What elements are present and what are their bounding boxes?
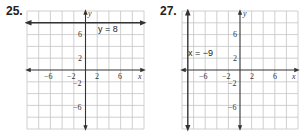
tick-y-2: 2 — [78, 54, 82, 63]
tick-x-2: 2 — [95, 72, 99, 81]
graph-27: y x x = −9 6 2 −2 −6 −6 −2 2 6 — [152, 0, 307, 138]
tick-x-m6: −6 — [44, 72, 53, 81]
tick-y-6: 6 — [233, 30, 237, 39]
graph-25: y x y = 8 6 2 −2 −6 −6 −2 2 6 — [0, 0, 155, 138]
x-axis-label: x — [291, 72, 296, 81]
y-axis-label: y — [87, 9, 92, 18]
tick-x-6: 6 — [118, 72, 122, 81]
tick-y-m6: −6 — [228, 103, 237, 112]
tick-x-m2: −2 — [67, 72, 76, 81]
tick-x-2: 2 — [250, 72, 254, 81]
tick-y-6: 6 — [78, 30, 82, 39]
tick-x-m2: −2 — [222, 72, 231, 81]
x-axis-label: x — [137, 72, 142, 81]
y-axis-label: y — [242, 9, 247, 18]
tick-y-m6: −6 — [73, 103, 82, 112]
equation-label: x = −9 — [188, 48, 213, 58]
equation-label: y = 8 — [98, 24, 118, 34]
problem-27: 27. y x x = −9 6 2 −2 −6 −6 −2 — [152, 0, 307, 138]
tick-y-2: 2 — [233, 54, 237, 63]
tick-x-m6: −6 — [199, 72, 208, 81]
problem-25: 25. y x y = 8 6 2 −2 −6 −6 −2 — [0, 0, 155, 138]
tick-x-6: 6 — [273, 72, 277, 81]
